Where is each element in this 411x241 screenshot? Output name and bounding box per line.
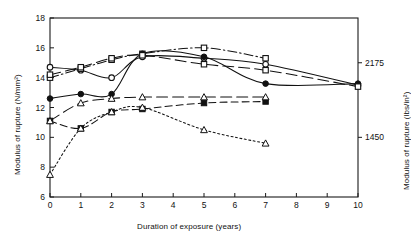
y-tick-label: 16 [36, 43, 46, 53]
x-tick-label: 6 [232, 200, 237, 210]
data-point-open-square [201, 62, 206, 67]
data-point-open-square [140, 53, 145, 58]
x-tick-label: 5 [202, 200, 207, 210]
x-tick-label: 9 [325, 200, 330, 210]
tick-labels: 68101214161801234567891021751450 [36, 13, 385, 210]
y-tick-label: 10 [36, 132, 46, 142]
x-tick-label: 3 [140, 200, 145, 210]
data-point-open-circle [263, 61, 269, 67]
y-axis-label-left: Modulus of rupture (N/mm²) [13, 74, 22, 175]
curve-series-open-triangle-longdash [50, 97, 266, 121]
x-tick-label: 8 [294, 200, 299, 210]
y-axis-label-right: Modulus of rupture (lbs/in²) [402, 92, 411, 190]
figure: 68101214161801234567891021751450 Modulus… [0, 0, 411, 241]
right-axis-tick-label: 2175 [365, 58, 384, 68]
data-point-filled-circle [47, 96, 53, 102]
data-point-open-circle [47, 64, 53, 70]
data-point-open-square [109, 56, 114, 61]
x-tick-label: 7 [263, 200, 268, 210]
y-tick-label: 6 [40, 192, 45, 202]
x-tick-label: 1 [78, 200, 83, 210]
data-point-open-square [47, 72, 52, 77]
data-point-filled-circle [263, 81, 269, 87]
right-axis-tick-label: 1450 [365, 132, 384, 142]
data-point-filled-circle [201, 54, 207, 60]
data-point-open-square [355, 84, 360, 89]
data-point-open-circle [109, 75, 115, 81]
curve-series-open-triangle-dotted [50, 106, 266, 174]
y-tick-label: 8 [40, 162, 45, 172]
data-point-open-square [201, 45, 206, 50]
data-point-open-square [78, 65, 83, 70]
y-tick-label: 14 [36, 73, 46, 83]
chart-canvas: 68101214161801234567891021751450 [0, 0, 411, 241]
y-tick-label: 12 [36, 103, 46, 113]
data-point-filled-square [201, 100, 206, 105]
x-tick-label: 0 [48, 200, 53, 210]
data-point-open-square [263, 56, 268, 61]
y-tick-label: 18 [36, 13, 46, 23]
x-axis-label: Duration of exposure (years) [137, 222, 241, 231]
x-tick-label: 10 [353, 200, 363, 210]
data-point-filled-circle [78, 91, 84, 97]
x-tick-label: 4 [171, 200, 176, 210]
data-point-open-square [263, 68, 268, 73]
x-tick-label: 2 [109, 200, 114, 210]
data-point-open-triangle [47, 171, 54, 177]
